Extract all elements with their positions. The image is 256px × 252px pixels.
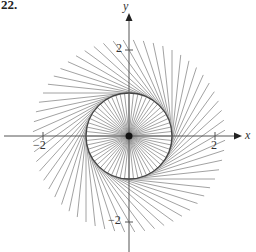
tangent-segment [171, 61, 189, 145]
tangent-segment [120, 178, 204, 196]
tangent-segment [153, 43, 171, 127]
tangent-segment [123, 40, 166, 114]
tangent-segment [138, 160, 222, 178]
y-axis-label: y [123, 0, 128, 14]
x-axis-arrow-icon [234, 133, 242, 140]
x-tick-label-2: 2 [211, 138, 217, 153]
tangent-segment [87, 145, 105, 229]
origin-dot [126, 133, 133, 140]
y-axis-arrow-icon [126, 13, 133, 21]
x-axis-label: x [245, 128, 250, 143]
y-tick-label-2: 2 [116, 41, 122, 56]
x-tick-label-neg2: −2 [33, 138, 46, 153]
tangent-segment [54, 76, 138, 94]
y-tick-label-neg2: −2 [108, 213, 121, 228]
tangent-segment [36, 94, 120, 112]
circle-tangent-diagram [0, 0, 256, 252]
tangent-segment [69, 127, 87, 211]
tangent-segment [33, 99, 107, 142]
